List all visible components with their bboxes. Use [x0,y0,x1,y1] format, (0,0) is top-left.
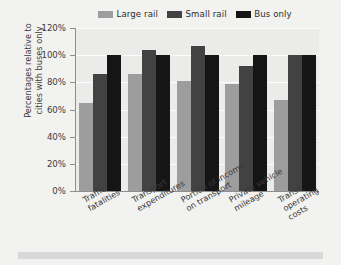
bar-chart: Large rail Small rail Bus only Percentag… [0,0,341,265]
legend-item-small-rail: Small rail [167,9,227,19]
y-axis-tick-label: 120% [26,23,66,33]
legend-swatch-small-rail [167,11,182,18]
y-axis-line [75,28,76,192]
bar-group [177,28,219,191]
legend-label-small-rail: Small rail [186,9,227,19]
bar-small-rail [93,74,107,191]
y-axis-tick [70,82,75,83]
y-axis-tick-label: 80% [26,77,66,87]
y-axis-tick-label: 20% [26,159,66,169]
bar-small-rail [142,50,156,191]
plot-area [76,28,319,191]
bar-small-rail [288,55,302,191]
y-axis-tick-label: 60% [26,105,66,115]
bar-bus-only [156,55,170,191]
y-axis-tick [70,55,75,56]
legend-swatch-bus-only [236,11,251,18]
y-axis-tick [70,137,75,138]
legend-swatch-large-rail [98,11,113,18]
footer-band [18,252,323,259]
legend-label-bus-only: Bus only [254,9,292,19]
legend-item-bus-only: Bus only [236,9,292,19]
bar-group [79,28,121,191]
y-axis-tick [70,164,75,165]
bar-bus-only [302,55,316,191]
y-axis-tick-label: 0% [26,186,66,196]
chart-legend: Large rail Small rail Bus only [98,9,292,19]
y-axis-tick-label: 40% [26,132,66,142]
legend-label-large-rail: Large rail [117,9,159,19]
legend-item-large-rail: Large rail [98,9,158,19]
bar-small-rail [191,46,205,191]
y-axis-tick-label: 100% [26,50,66,60]
bar-group [128,28,170,191]
y-axis-tick [70,191,75,192]
bar-bus-only [253,55,267,191]
bar-bus-only [107,55,121,191]
y-axis-tick [70,28,75,29]
bar-large-rail [128,74,142,191]
bar-bus-only [205,55,219,191]
bar-large-rail [79,103,93,191]
y-axis-tick [70,110,75,111]
